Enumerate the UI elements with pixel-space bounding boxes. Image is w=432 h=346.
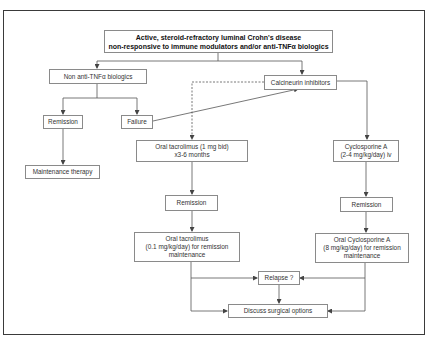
node-label: Calcineurin inhibitors (271, 79, 330, 87)
node-label-line1: Oral tacrolimus (1 mg bid) (155, 143, 229, 151)
edge-tacrolimus-to-surgery (191, 262, 227, 311)
node-label-line2: (2-4 mg/kg/day) iv (340, 151, 391, 159)
node-label-line2: (8 mg/kg/day) for remission (323, 244, 400, 252)
node-label-line1: Oral Cyclosporine A (334, 236, 390, 244)
node-label: Remission (352, 201, 382, 209)
node-label: Failure (127, 118, 147, 126)
node-label: Discuss surgical options (244, 307, 313, 315)
node-remission-cyclosporine: Remission (340, 197, 393, 212)
node-label: Remission (177, 199, 207, 207)
node-relapse: Relapse ? (258, 271, 300, 285)
node-label: Maintenance therapy (33, 168, 93, 176)
node-oral-tacrolimus-maintenance: Oral tacrolimus (0.1 mg/kg/day) for remi… (134, 232, 240, 262)
edge-failure-to-calcineurin (153, 89, 298, 121)
node-cyclosporine-iv: Cyclosporine A (2-4 mg/kg/day) iv (333, 140, 399, 162)
node-start: Active, steroid-refractory luminal Crohn… (104, 30, 333, 53)
node-oral-tacrolimus-induction: Oral tacrolimus (1 mg bid) x3-6 months (136, 140, 248, 162)
node-remission-tacrolimus: Remission (165, 195, 218, 211)
node-maintenance-therapy: Maintenance therapy (25, 165, 100, 179)
edge-calcineurin-to-tacrolimus (192, 82, 264, 139)
edge-cyclosporine-to-surgery (328, 263, 365, 311)
node-label: Non anti-TNFα biologics (64, 73, 133, 81)
node-label-line1: Oral tacrolimus (166, 235, 209, 243)
node-remission-left: Remission (43, 115, 83, 129)
node-label: Remission (48, 118, 78, 126)
node-oral-cyclosporine-maintenance: Oral Cyclosporine A (8 mg/kg/day) for re… (315, 233, 409, 263)
node-start-line1: Active, steroid-refractory luminal Crohn… (136, 33, 301, 42)
node-start-line2: non-responsive to immune modulators and/… (108, 42, 328, 51)
node-label-line1: Cyclosporine A (345, 143, 388, 151)
node-label: Relapse ? (265, 274, 294, 282)
node-label-line2: x3-6 months (174, 151, 209, 159)
node-failure: Failure (121, 115, 153, 129)
node-label-line3: maintenance (344, 252, 381, 260)
edge-calcineurin-to-cyclosporine (337, 81, 367, 139)
node-label-line2: (0.1 mg/kg/day) for remission (146, 243, 229, 251)
node-label-line3: maintenance (169, 251, 206, 259)
node-non-anti-tnf-biologics: Non anti-TNFα biologics (49, 69, 147, 84)
node-discuss-surgical-options: Discuss surgical options (228, 304, 328, 318)
node-calcineurin-inhibitors: Calcineurin inhibitors (264, 75, 337, 90)
